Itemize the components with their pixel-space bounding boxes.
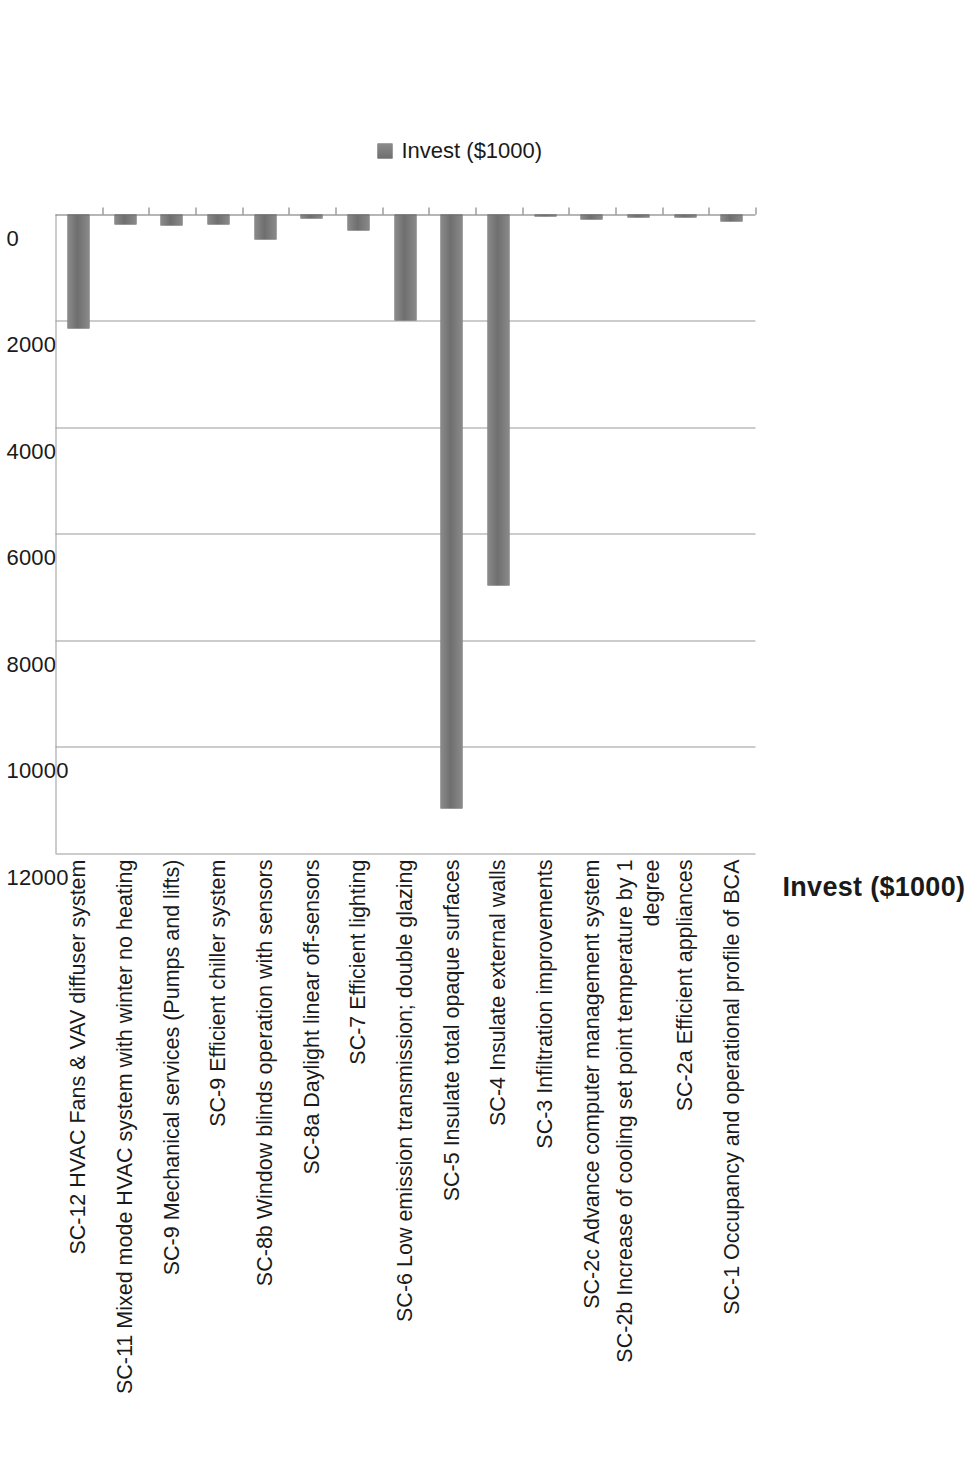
value-tick-2000: 2000 xyxy=(6,332,56,358)
chart-legend: Invest ($1000) xyxy=(377,137,542,163)
bar-slot xyxy=(335,214,382,853)
bar xyxy=(67,214,89,328)
category-label: SC-2c Advance computer management system xyxy=(579,859,605,1308)
category-label: SC-7 Efficient lighting xyxy=(345,859,371,1064)
bar-slot xyxy=(662,214,709,853)
category-label: SC-3 Infiltration improvements xyxy=(532,859,558,1148)
category-tick xyxy=(522,207,523,214)
category-label: SC-8b Window blinds operation with senso… xyxy=(252,859,278,1286)
category-tick xyxy=(382,207,383,214)
bar-slot xyxy=(148,214,195,853)
value-tick-0: 0 xyxy=(6,225,18,251)
bar-slot xyxy=(102,214,149,853)
bar-slot xyxy=(195,214,242,853)
bar xyxy=(207,214,229,224)
category-axis-tick-labels: SC-12 HVAC Fans & VAV diffuser systemSC-… xyxy=(55,855,755,1467)
bar-slot xyxy=(242,214,289,853)
category-tick xyxy=(102,207,103,214)
category-tick xyxy=(428,207,429,214)
value-tick-6000: 6000 xyxy=(6,545,56,571)
bar xyxy=(440,214,462,808)
bar-slot xyxy=(522,214,569,853)
category-tick xyxy=(615,207,616,214)
category-label: SC-8a Daylight linear off-sensors xyxy=(299,859,325,1174)
category-tick xyxy=(195,207,196,214)
category-label: SC-12 HVAC Fans & VAV diffuser system xyxy=(65,859,91,1254)
bar xyxy=(487,214,509,585)
category-tick xyxy=(242,207,243,214)
value-tick-8000: 8000 xyxy=(6,651,56,677)
category-label: SC-2a Efficient appliances xyxy=(672,859,698,1111)
bar-slot xyxy=(428,214,475,853)
bar-slot xyxy=(615,214,662,853)
category-tick xyxy=(568,207,569,214)
bar xyxy=(114,214,136,224)
category-label: SC-6 Low emission transmission; double g… xyxy=(392,859,418,1321)
category-tick xyxy=(708,207,709,214)
category-label: SC-1 Occupancy and operational profile o… xyxy=(719,859,745,1314)
value-tick-4000: 4000 xyxy=(6,438,56,464)
bar-slot xyxy=(382,214,429,853)
category-tick xyxy=(662,207,663,214)
bar-series-invest xyxy=(55,214,755,853)
category-label: SC-9 Efficient chiller system xyxy=(205,859,231,1126)
category-tick xyxy=(475,207,476,214)
category-label: SC-9 Mechanical services (Pumps and lift… xyxy=(159,859,185,1275)
legend-swatch-invest xyxy=(377,143,392,158)
bar-slot xyxy=(288,214,335,853)
category-label: SC-4 Insulate external walls xyxy=(485,859,511,1125)
value-axis-title: Invest ($1000) xyxy=(782,871,965,902)
bar xyxy=(160,214,182,225)
category-tick xyxy=(335,207,336,214)
category-label: SC-5 Insulate total opaque surfaces xyxy=(439,859,465,1201)
bar-slot xyxy=(568,214,615,853)
category-label: SC-2b Increase of cooling set point temp… xyxy=(612,859,664,1362)
bar xyxy=(394,214,416,321)
legend-label-invest: Invest ($1000) xyxy=(401,137,542,163)
value-axis-tick-labels: 020004000600080001000012000 xyxy=(0,214,55,853)
bar xyxy=(347,214,369,230)
category-axis-line xyxy=(55,214,755,215)
plot-area xyxy=(55,214,755,853)
category-label: SC-11 Mixed mode HVAC system with winter… xyxy=(112,859,138,1394)
bar-slot xyxy=(55,214,102,853)
category-tick xyxy=(755,207,756,214)
bar-slot xyxy=(475,214,522,853)
category-tick xyxy=(288,207,289,214)
category-tick xyxy=(148,207,149,214)
bar-slot xyxy=(708,214,755,853)
bar xyxy=(254,214,276,239)
